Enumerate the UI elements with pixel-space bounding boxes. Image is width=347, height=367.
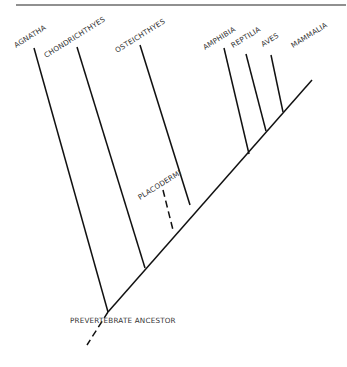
branch-aves [271, 55, 283, 112]
branch-amphibia [224, 48, 249, 154]
label-mammalia: MAMMALIA [289, 20, 329, 49]
label-chondrichthyes: CHONDRICHTHYES [42, 15, 107, 60]
label-prevertebrate-ancestor: PREVERTEBRATE ANCESTOR [70, 316, 176, 325]
branch-reptilia [246, 54, 266, 131]
cladogram: AGNATHA CHONDRICHTHYES PLACODERMI OSTEIC… [0, 0, 347, 367]
label-osteichthyes: OSTEICHTHYES [113, 17, 167, 55]
label-placodermi: PLACODERMI [136, 168, 183, 202]
label-agnatha: AGNATHA [12, 23, 47, 50]
label-aves: AVES [259, 31, 280, 49]
branch-chondrichthyes [77, 47, 145, 268]
branch-agnatha [34, 48, 108, 312]
branch-placodermi [163, 190, 173, 230]
